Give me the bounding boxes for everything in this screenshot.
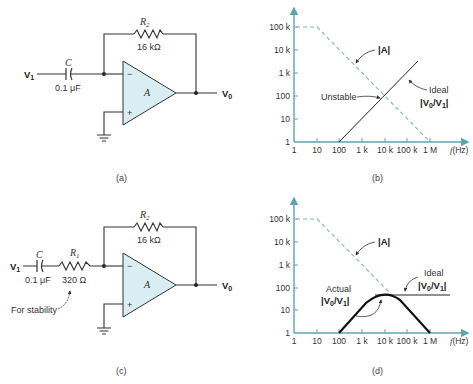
capacitor-c [66, 68, 72, 80]
curve-actual [339, 295, 430, 333]
capacitor-c [37, 260, 43, 272]
output-node [194, 91, 198, 95]
circuit-c: V1 C 0.1 μF R1 320 Ω For stability R2 16… [10, 209, 232, 376]
r2-value: 16 kΩ [137, 235, 161, 245]
opamp-label: A [143, 87, 151, 98]
plus-input-wire [104, 112, 123, 135]
minus-sign: − [127, 69, 132, 79]
x-tick: 1 k [356, 145, 368, 155]
label-A: |A| [378, 44, 390, 55]
capacitor-name: C [65, 57, 72, 68]
chart-b: 100 k 10 k 1 k 100 10 1 1 10 100 1 k 10 … [269, 8, 468, 183]
x-tick: 10 k [377, 336, 394, 346]
curve-A [296, 27, 430, 142]
y-tick: 100 [276, 91, 290, 101]
y-tick: 100 k [269, 214, 291, 224]
x-axis-label: f(Hz) [450, 145, 469, 155]
resistor-r2 [134, 30, 163, 38]
x-tick: 10 k [377, 145, 394, 155]
x-axis-label: f(Hz) [450, 336, 469, 346]
label-ideal: Ideal [429, 85, 449, 95]
capacitor-name: C [36, 249, 43, 260]
capacitor-value: 0.1 μF [55, 83, 81, 93]
y-tick: 100 [276, 283, 290, 293]
y-tick: 10 k [274, 237, 291, 247]
y-tick: 1 k [279, 260, 291, 270]
label-A: |A| [378, 236, 390, 247]
caption-c: (c) [116, 366, 127, 376]
caption-a: (a) [116, 173, 127, 183]
x-tick: 100 [332, 145, 346, 155]
label-ideal-ratio: |V0/V1| [418, 280, 446, 292]
label-actual-ratio: |V0/V1| [321, 295, 349, 307]
plus-sign: + [127, 300, 132, 310]
label-ideal-ratio: |V0/V1| [420, 97, 448, 109]
y-tick: 1 [285, 328, 290, 338]
x-tick: 100 [332, 336, 346, 346]
x-tick: 1 [292, 145, 297, 155]
r2-name: R2 [139, 209, 150, 222]
minus-sign: − [127, 261, 132, 271]
ground-icon [97, 135, 111, 141]
x-tick: 1 [292, 336, 297, 346]
x-tick: 100 k [397, 145, 419, 155]
caption-d: (d) [372, 366, 383, 376]
label-ideal: Ideal [424, 268, 444, 278]
r1-name: R1 [69, 247, 80, 260]
label-unstable: Unstable [321, 92, 357, 102]
curve-A [296, 219, 391, 294]
capacitor-value: 0.1 μF [25, 275, 51, 285]
caption-b: (b) [372, 173, 383, 183]
output-label-v0: V0 [222, 88, 232, 100]
plus-input-wire [104, 304, 123, 328]
label-actual: Actual [326, 284, 351, 294]
opamp-label: A [143, 279, 151, 290]
circuit-a: V1 C 0.1 μF R2 16 kΩ − + A V0 (a) [24, 16, 232, 183]
output-node [194, 283, 198, 287]
y-tick: 1 [285, 137, 290, 147]
resistor-r2 [134, 223, 163, 231]
y-tick: 10 k [274, 45, 291, 55]
y-tick: 10 [281, 114, 291, 124]
r1-value: 320 Ω [62, 275, 87, 285]
y-tick: 10 [281, 305, 291, 315]
for-stability-note: For stability [11, 305, 58, 315]
x-tick: 10 [312, 145, 322, 155]
x-tick: 1 k [356, 336, 368, 346]
y-tick: 100 k [269, 22, 291, 32]
plus-sign: + [127, 108, 132, 118]
input-label-v1: V1 [10, 261, 20, 273]
r2-value: 16 kΩ [137, 42, 161, 52]
y-tick: 1 k [279, 68, 291, 78]
output-label-v0: V0 [222, 280, 232, 292]
x-tick: 1 M [423, 145, 437, 155]
x-tick: 1 M [423, 336, 437, 346]
resistor-r1 [59, 262, 90, 270]
figure-canvas: V1 C 0.1 μF R2 16 kΩ − + A V0 (a) [0, 0, 473, 384]
x-tick: 100 k [397, 336, 419, 346]
r2-name: R2 [139, 16, 150, 29]
ground-icon [97, 328, 111, 334]
chart-d: 100 k 10 k 1 k 100 10 1 1 10 100 1 k 10 … [269, 198, 468, 376]
x-tick: 10 [312, 336, 322, 346]
input-label-v1: V1 [24, 69, 34, 81]
